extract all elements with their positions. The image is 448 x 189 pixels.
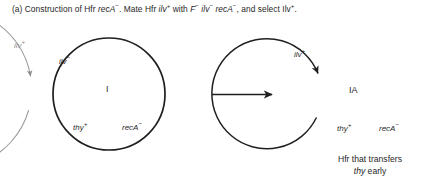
left-outer-ring-arc	[0, 10, 31, 168]
right-diagram-caption: Hfr that transfers thy early	[300, 154, 440, 177]
left-marker-thy-plus: thy+	[73, 123, 87, 132]
caption-line-2-rest: early	[365, 166, 386, 176]
left-ring-center-label: I	[106, 85, 109, 94]
caption-line-2: thy early	[300, 166, 440, 178]
right-ring-center-label: IA	[349, 86, 358, 95]
right-marker-ilv-plus: ilv+	[294, 50, 305, 59]
left-outer-ring-group	[0, 10, 31, 168]
left-inner-marker-ilv-minus: ilv−	[59, 57, 70, 66]
right-marker-recA-minus: recA−	[379, 124, 399, 133]
left-marker-recA-minus: recA−	[122, 123, 142, 132]
caption-gene-thy: thy	[354, 166, 365, 176]
caption-line-1: Hfr that transfers	[300, 154, 440, 166]
figure-panel-a: (a) Construction of Hfr recA−. Mate Hfr …	[0, 0, 448, 189]
left-outer-marker-ilv-plus: ilv+	[14, 41, 25, 50]
right-marker-thy-plus: thy+	[337, 124, 351, 133]
